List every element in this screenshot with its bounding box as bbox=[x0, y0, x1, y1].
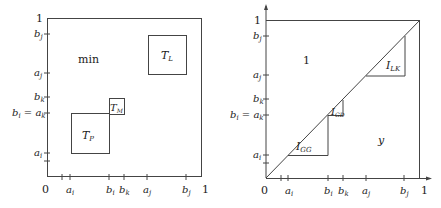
diagonal-line bbox=[266, 20, 420, 178]
svg-text:bj: bj bbox=[253, 30, 262, 43]
left-panel: 1 0 1 min ai bi bk aj bj bj aj bk bi = a… bbox=[12, 12, 209, 197]
svg-text:ai: ai bbox=[285, 185, 293, 198]
svg-text:aj: aj bbox=[34, 67, 43, 80]
left-x-tick-labels: ai bi bk aj bj bbox=[66, 184, 191, 197]
label-i-gg: IGG bbox=[295, 140, 312, 154]
label-t-p: TP bbox=[82, 129, 94, 143]
svg-text:bi = ak: bi = ak bbox=[12, 107, 46, 120]
svg-text:bi = ak: bi = ak bbox=[230, 109, 264, 122]
svg-text:bk: bk bbox=[119, 184, 130, 197]
x-axis-arrow-icon bbox=[426, 177, 432, 181]
svg-text:bj: bj bbox=[400, 185, 409, 198]
figure-canvas: 1 0 1 min ai bi bk aj bj bj aj bk bi = a… bbox=[0, 0, 441, 208]
right-y-tick-labels: bj aj bk bi = ak ai bbox=[230, 30, 264, 162]
left-top-one: 1 bbox=[36, 12, 43, 25]
svg-text:ai: ai bbox=[66, 184, 74, 197]
svg-text:bj: bj bbox=[182, 184, 191, 197]
left-origin: 0 bbox=[42, 183, 49, 196]
svg-text:ai: ai bbox=[34, 147, 42, 160]
svg-text:bi: bi bbox=[106, 184, 115, 197]
svg-text:bk: bk bbox=[34, 91, 45, 104]
label-i-lk: ILK bbox=[385, 59, 401, 73]
svg-text:aj: aj bbox=[143, 184, 152, 197]
svg-text:bk: bk bbox=[253, 93, 264, 106]
svg-text:bk: bk bbox=[338, 185, 349, 198]
svg-text:aj: aj bbox=[253, 69, 262, 82]
lower-region-label: y bbox=[377, 134, 385, 147]
left-right-one: 1 bbox=[202, 183, 209, 196]
svg-text:bi: bi bbox=[324, 185, 333, 198]
left-y-tick-labels: bj aj bk bi = ak ai bbox=[12, 28, 46, 160]
left-frame bbox=[48, 19, 202, 177]
right-origin: 0 bbox=[261, 184, 268, 197]
svg-text:bj: bj bbox=[34, 28, 43, 41]
box-t-p bbox=[72, 114, 110, 154]
label-t-l: TL bbox=[161, 49, 173, 63]
right-top-one: 1 bbox=[254, 14, 261, 27]
right-right-one: 1 bbox=[421, 184, 428, 197]
y-axis-arrow-icon bbox=[264, 4, 268, 10]
svg-text:aj: aj bbox=[362, 185, 371, 198]
left-min-label: min bbox=[78, 53, 99, 66]
right-x-tick-labels: ai bi bk aj bj bbox=[285, 185, 409, 198]
upper-region-label: 1 bbox=[303, 54, 310, 67]
label-t-m: TM bbox=[110, 102, 124, 114]
right-panel: 1 0 1 1 y ai bi bk aj bj bj aj bk bi = a… bbox=[230, 4, 432, 198]
svg-text:ai: ai bbox=[253, 149, 261, 162]
